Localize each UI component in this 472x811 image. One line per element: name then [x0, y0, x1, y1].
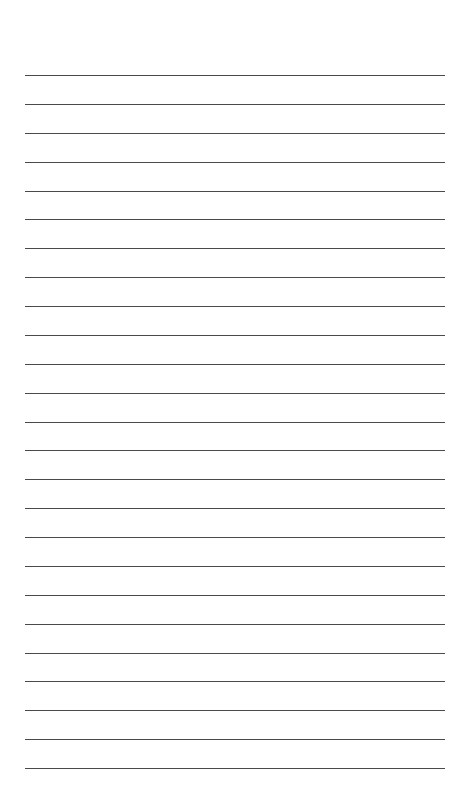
- ruled-line: [25, 277, 445, 278]
- ruled-line: [25, 508, 445, 509]
- ruled-line: [25, 219, 445, 220]
- ruled-line: [25, 739, 445, 740]
- ruled-line: [25, 653, 445, 654]
- ruled-line: [25, 162, 445, 163]
- ruled-line: [25, 104, 445, 105]
- lined-paper-sheet: [0, 0, 472, 811]
- ruled-line: [25, 422, 445, 423]
- ruled-line: [25, 306, 445, 307]
- ruled-line: [25, 537, 445, 538]
- ruled-line: [25, 479, 445, 480]
- ruled-line: [25, 768, 445, 769]
- ruled-line: [25, 191, 445, 192]
- ruled-line: [25, 335, 445, 336]
- ruled-line: [25, 364, 445, 365]
- ruled-line: [25, 450, 445, 451]
- ruled-line: [25, 595, 445, 596]
- ruled-line: [25, 566, 445, 567]
- ruled-line: [25, 681, 445, 682]
- ruled-line: [25, 248, 445, 249]
- ruled-line: [25, 624, 445, 625]
- ruled-line: [25, 393, 445, 394]
- ruled-line: [25, 710, 445, 711]
- ruled-line: [25, 75, 445, 76]
- ruled-line: [25, 133, 445, 134]
